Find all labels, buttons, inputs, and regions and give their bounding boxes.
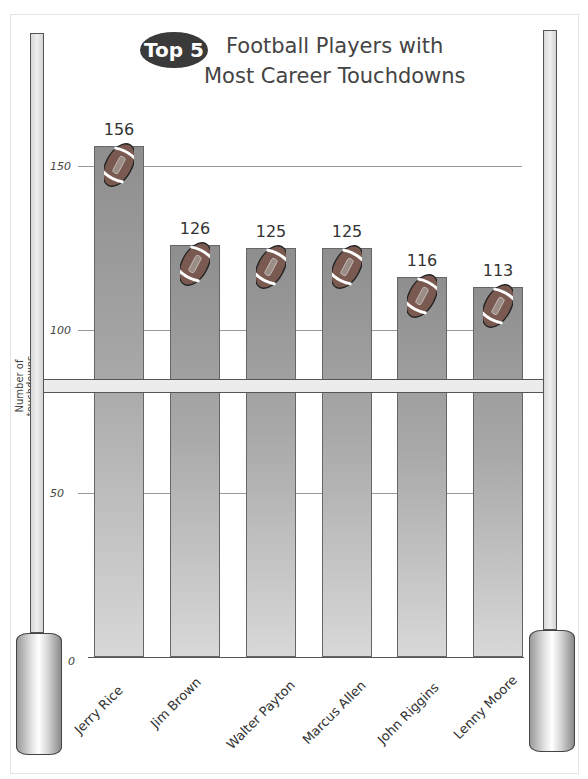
- football-icon: [256, 242, 286, 292]
- y-tick-50: 50: [50, 487, 90, 500]
- bar-value-label: 113: [468, 261, 528, 280]
- goalpost-left-base: [16, 633, 62, 755]
- bar-value-label: 125: [317, 222, 377, 241]
- goalpost-right-upright: [543, 30, 557, 630]
- bar-jim-brown: [170, 245, 220, 657]
- top5-badge: Top 5: [140, 32, 208, 68]
- football-icon: [332, 242, 362, 292]
- football-icon: [483, 281, 513, 331]
- football-icon: [180, 239, 210, 289]
- title-line-1: Football Players with: [226, 34, 443, 58]
- y-tick-100: 100: [50, 324, 90, 337]
- bar-value-label: 156: [89, 120, 149, 139]
- y-tick-150: 150: [50, 160, 90, 173]
- football-icon: [407, 271, 437, 321]
- gridline-100: [78, 330, 522, 331]
- goalpost-right-base: [529, 630, 575, 752]
- bar-value-label: 125: [241, 222, 301, 241]
- goalpost-left-upright: [30, 33, 44, 633]
- bar-walter-payton: [246, 248, 296, 657]
- gridline-50: [78, 493, 522, 494]
- football-icon: [104, 140, 134, 190]
- x-axis-baseline: [88, 657, 524, 658]
- goalpost-crossbar: [44, 379, 543, 393]
- bar-jerry-rice: [94, 146, 144, 657]
- bar-marcus-allen: [322, 248, 372, 657]
- bar-lenny-moore: [473, 287, 523, 657]
- bar-value-label: 116: [392, 251, 452, 270]
- gridline-150: [78, 166, 522, 167]
- bar-value-label: 126: [165, 219, 225, 238]
- bar-john-riggins: [397, 277, 447, 657]
- title-line-2: Most Career Touchdowns: [204, 64, 466, 88]
